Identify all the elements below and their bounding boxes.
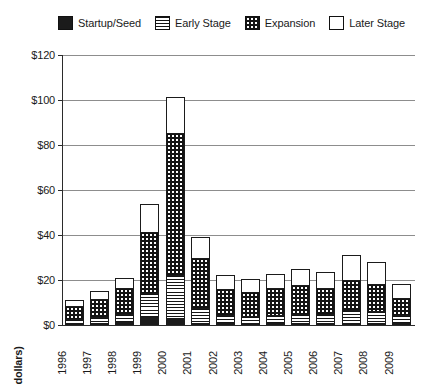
bar-segment-startup-seed-2002: [216, 323, 235, 325]
legend-item-expansion: Expansion: [245, 16, 315, 30]
bar-segment-later-stage-2004: [266, 274, 285, 288]
bar-2006[interactable]: [316, 272, 335, 325]
legend-item-later-stage: Later Stage: [329, 16, 405, 30]
bar-segment-expansion-2003: [241, 292, 260, 316]
bar-segment-later-stage-1999: [140, 204, 159, 232]
bar-segment-expansion-2004: [266, 288, 285, 315]
bar-2005[interactable]: [291, 269, 310, 325]
legend-item-early-stage: Early Stage: [155, 16, 231, 30]
bar-2004[interactable]: [266, 274, 285, 325]
bar-segment-expansion-1999: [140, 232, 159, 293]
y-axis-tick-label: $120: [31, 49, 55, 61]
x-axis-label-2009: 2009: [382, 351, 420, 375]
bar-segment-early-stage-2000: [166, 275, 185, 318]
bar-1999[interactable]: [140, 204, 159, 325]
bar-1997[interactable]: [90, 291, 109, 325]
y-axis-tick-label: $100: [31, 94, 55, 106]
bar-segment-later-stage-2008: [367, 262, 386, 284]
y-axis-tick-label: $60: [37, 184, 55, 196]
bar-segment-startup-seed-2008: [367, 323, 386, 325]
bar-segment-early-stage-2003: [241, 316, 260, 323]
bar-segment-expansion-2000: [166, 133, 185, 275]
y-axis-tick: [58, 55, 63, 56]
y-axis-tick-label: $80: [37, 139, 55, 151]
bar-segment-early-stage-2004: [266, 315, 285, 323]
bar-2007[interactable]: [342, 255, 361, 325]
bar-segment-startup-seed-1998: [115, 322, 134, 325]
chart-legend: Startup/Seed Early Stage Expansion Later…: [58, 13, 416, 33]
bar-segment-expansion-1998: [115, 288, 134, 314]
y-axis-tick: [58, 100, 63, 101]
x-axis-label-wrap: 2009: [392, 330, 411, 382]
bar-segment-early-stage-2009: [392, 315, 411, 323]
bar-segment-early-stage-2007: [342, 310, 361, 323]
y-axis-title-text: Amount of investment (in billions of dol…: [12, 322, 24, 387]
bar-2008[interactable]: [367, 262, 386, 325]
y-axis-tick: [58, 190, 63, 191]
bar-segment-startup-seed-2004: [266, 323, 285, 325]
bar-segment-later-stage-1998: [115, 278, 134, 288]
legend-label-expansion: Expansion: [265, 18, 315, 29]
bar-segment-later-stage-2001: [191, 237, 210, 258]
bar-2009[interactable]: [392, 284, 411, 325]
legend-label-startup-seed: Startup/Seed: [78, 18, 141, 29]
legend-label-early-stage: Early Stage: [175, 18, 231, 29]
legend-swatch-dotted-icon: [245, 16, 260, 30]
bar-segment-early-stage-2001: [191, 308, 210, 323]
bar-segment-startup-seed-1997: [90, 323, 109, 325]
bar-segment-later-stage-2003: [241, 279, 260, 292]
bar-segment-startup-seed-2007: [342, 323, 361, 325]
y-axis-tick: [58, 280, 63, 281]
bar-segment-later-stage-2007: [342, 255, 361, 280]
bar-2000[interactable]: [166, 97, 185, 325]
bar-segment-early-stage-1999: [140, 293, 159, 318]
y-axis-tick-label: $0: [43, 319, 55, 331]
y-axis-tick: [58, 325, 63, 326]
gridline: [63, 190, 415, 191]
bar-segment-startup-seed-2006: [316, 323, 335, 325]
bar-segment-early-stage-2006: [316, 314, 335, 323]
bar-segment-startup-seed-2001: [191, 323, 210, 325]
bar-segment-early-stage-2002: [216, 315, 235, 323]
gridline: [63, 145, 415, 146]
gridline: [63, 235, 415, 236]
legend-label-later-stage: Later Stage: [349, 18, 405, 29]
bar-1998[interactable]: [115, 278, 134, 325]
gridline: [63, 100, 415, 101]
y-axis-tick: [58, 235, 63, 236]
bar-segment-expansion-2002: [216, 289, 235, 315]
bar-2002[interactable]: [216, 275, 235, 325]
bar-segment-later-stage-1997: [90, 291, 109, 299]
bar-segment-later-stage-2000: [166, 97, 185, 133]
x-axis-labels: 1996199719981999200020012002200320042005…: [62, 330, 414, 382]
legend-swatch-horizontal-lines-icon: [155, 16, 170, 30]
bar-segment-expansion-2008: [367, 284, 386, 311]
bar-segment-later-stage-2005: [291, 269, 310, 284]
bar-segment-later-stage-2002: [216, 275, 235, 290]
bar-segment-expansion-1996: [65, 306, 84, 318]
bar-2003[interactable]: [241, 279, 260, 325]
bar-segment-expansion-2009: [392, 298, 411, 315]
bar-1996[interactable]: [65, 300, 84, 325]
bar-segment-startup-seed-1996: [65, 323, 84, 325]
bar-segment-startup-seed-2005: [291, 323, 310, 325]
bar-segment-early-stage-1998: [115, 314, 134, 322]
y-axis-tick-label: $20: [37, 274, 55, 286]
bar-2001[interactable]: [191, 237, 210, 325]
bar-segment-later-stage-2006: [316, 272, 335, 288]
legend-swatch-white-icon: [329, 16, 344, 30]
bar-segment-startup-seed-2009: [392, 323, 411, 325]
bar-segment-expansion-2001: [191, 258, 210, 308]
bar-segment-expansion-1997: [90, 299, 109, 317]
bar-segment-later-stage-2009: [392, 284, 411, 298]
y-axis-tick-label: $40: [37, 229, 55, 241]
legend-swatch-solid-black-icon: [58, 16, 73, 30]
bar-segment-startup-seed-1999: [140, 317, 159, 325]
bar-segment-startup-seed-2000: [166, 318, 185, 325]
bar-segment-early-stage-2005: [291, 314, 310, 323]
y-axis-tick: [58, 145, 63, 146]
bar-segment-expansion-2006: [316, 288, 335, 314]
legend-item-startup-seed: Startup/Seed: [58, 16, 141, 30]
y-axis-title: Amount of investment (in billions of dol…: [12, 52, 24, 322]
bar-segment-startup-seed-2003: [241, 323, 260, 325]
